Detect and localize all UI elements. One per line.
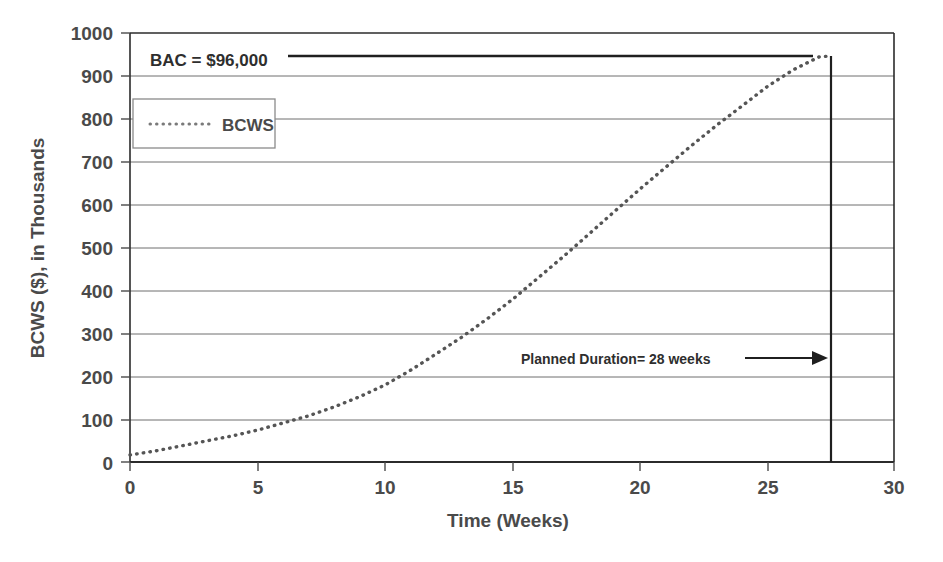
x-tick-label-30: 30 bbox=[883, 477, 904, 498]
y-tick-label-800: 800 bbox=[81, 109, 113, 130]
bac-annotation-label: BAC = $96,000 bbox=[150, 51, 268, 70]
y-tick-label-100: 100 bbox=[81, 410, 113, 431]
y-tick-label-1000: 1000 bbox=[71, 23, 113, 44]
y-tick-label-600: 600 bbox=[81, 195, 113, 216]
x-axis-title: Time (Weeks) bbox=[447, 510, 569, 531]
y-tick-label-700: 700 bbox=[81, 152, 113, 173]
legend: BCWS bbox=[133, 99, 275, 148]
y-tick-label-900: 900 bbox=[81, 66, 113, 87]
legend-bcws-label: BCWS bbox=[222, 116, 274, 135]
chart-background bbox=[0, 0, 943, 562]
x-tick-label-20: 20 bbox=[629, 477, 650, 498]
x-tick-label-0: 0 bbox=[125, 477, 136, 498]
planned-duration-label: Planned Duration= 28 weeks bbox=[521, 351, 711, 367]
y-tick-label-200: 200 bbox=[81, 367, 113, 388]
y-tick-label-500: 500 bbox=[81, 238, 113, 259]
y-tick-label-400: 400 bbox=[81, 281, 113, 302]
y-axis-title: BCWS ($), in Thousands bbox=[27, 138, 48, 359]
x-tick-label-15: 15 bbox=[502, 477, 524, 498]
x-tick-label-5: 5 bbox=[253, 477, 264, 498]
y-tick-label-300: 300 bbox=[81, 324, 113, 345]
y-tick-label-0: 0 bbox=[102, 453, 113, 474]
chart-container: 1000 900 800 700 600 500 400 300 200 100… bbox=[0, 0, 943, 562]
bcws-line-chart: 1000 900 800 700 600 500 400 300 200 100… bbox=[0, 0, 943, 562]
x-tick-label-10: 10 bbox=[374, 477, 395, 498]
x-tick-label-25: 25 bbox=[757, 477, 779, 498]
